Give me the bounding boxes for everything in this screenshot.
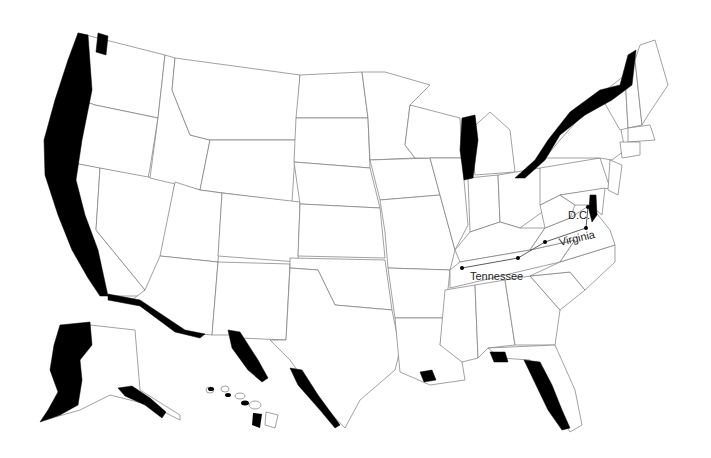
band-gulf-panhandle xyxy=(490,352,508,362)
state-montana xyxy=(172,58,300,140)
us-map: D.C. Virginia Tennessee xyxy=(0,0,711,458)
state-connecticut xyxy=(620,142,640,158)
state-north-dakota xyxy=(296,72,368,118)
state-new-mexico xyxy=(212,262,290,340)
state-new-jersey xyxy=(608,160,622,195)
label-dc: D.C. xyxy=(568,209,590,221)
point-tennessee-west xyxy=(460,266,464,270)
point-kentucky-virginia xyxy=(543,240,547,244)
state-colorado xyxy=(218,193,300,262)
band-puget-sound xyxy=(96,33,108,55)
state-kansas xyxy=(298,204,385,258)
state-massachusetts xyxy=(628,125,655,142)
state-hawaii xyxy=(206,386,278,428)
point-tennessee-mid xyxy=(516,256,520,260)
state-south-dakota xyxy=(294,118,370,168)
state-arkansas xyxy=(388,268,450,318)
state-iowa xyxy=(370,158,440,200)
label-tennessee: Tennessee xyxy=(470,270,523,282)
state-wisconsin xyxy=(405,105,462,158)
state-nebraska xyxy=(294,162,380,208)
